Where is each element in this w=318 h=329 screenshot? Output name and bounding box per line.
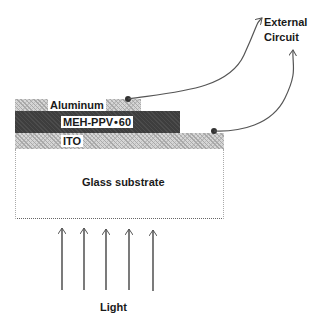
light-label: Light [100,301,127,313]
ito-wire [211,50,294,134]
light-arrows [62,228,153,291]
aluminum-wire [125,18,262,102]
diagram-wires [0,0,318,329]
